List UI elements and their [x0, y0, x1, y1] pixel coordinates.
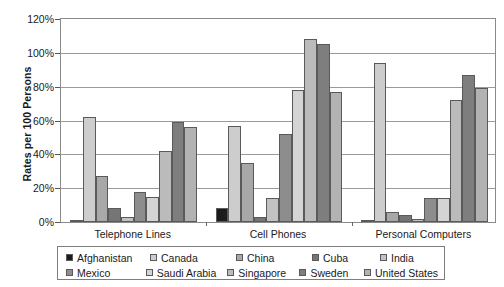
bar — [330, 92, 343, 222]
bar — [374, 63, 387, 222]
legend-label: Cuba — [323, 252, 348, 264]
bar — [254, 217, 267, 222]
legend-swatch — [66, 269, 73, 276]
y-axis-tick-label: 20% — [2, 182, 54, 194]
bar — [462, 75, 475, 222]
bar — [424, 198, 437, 222]
legend-item: China — [236, 252, 312, 264]
bar — [228, 126, 241, 222]
bar — [292, 90, 305, 222]
x-axis-label: Cell Phones — [250, 228, 307, 240]
legend-label: Afghanistan — [77, 252, 132, 264]
legend-swatch — [227, 269, 234, 276]
legend-row: AfghanistanCanadaChinaCubaIndia — [66, 250, 438, 265]
legend-label: India — [391, 252, 414, 264]
bar — [146, 197, 159, 222]
legend-swatch — [66, 254, 73, 261]
legend-swatch — [299, 269, 306, 276]
bar — [134, 192, 147, 222]
legend-item: Saudi Arabia — [146, 267, 228, 279]
bar — [83, 117, 96, 222]
legend-swatch — [236, 254, 243, 261]
bar — [172, 122, 185, 222]
bar — [241, 163, 254, 222]
legend-item: Mexico — [66, 267, 146, 279]
legend-item: Afghanistan — [66, 252, 150, 264]
bar — [70, 220, 83, 222]
bar-series-container — [61, 19, 495, 222]
legend-swatch — [380, 254, 387, 261]
bar — [437, 198, 450, 222]
legend-item: Cuba — [312, 252, 380, 264]
plot-area — [60, 18, 496, 223]
bar — [216, 208, 229, 222]
y-axis-tick-label: 40% — [2, 148, 54, 160]
legend-label: Canada — [161, 252, 198, 264]
bar — [475, 88, 488, 222]
legend-swatch — [312, 254, 319, 261]
legend-item: Singapore — [227, 267, 299, 279]
legend-label: Mexico — [77, 267, 110, 279]
x-axis-label: Personal Computers — [375, 228, 471, 240]
legend-swatch — [146, 269, 153, 276]
y-axis-tick-label: 100% — [2, 47, 54, 59]
bar-chart: Rates per 100 Persons 0%20%40%60%80%100%… — [0, 0, 504, 287]
legend-item: India — [380, 252, 414, 264]
legend-row: MexicoSaudi ArabiaSingaporeSwedenUnited … — [66, 265, 438, 280]
legend-label: Saudi Arabia — [157, 267, 217, 279]
category-separator — [206, 222, 207, 226]
y-axis-tick-label: 0% — [2, 216, 54, 228]
bar — [304, 39, 317, 222]
legend-item: United States — [364, 267, 438, 279]
bar — [108, 208, 121, 222]
bar — [399, 215, 412, 222]
y-axis-tick-label: 120% — [2, 13, 54, 25]
legend-swatch — [364, 269, 371, 276]
legend-item: Sweden — [299, 267, 364, 279]
legend-label: United States — [375, 267, 438, 279]
legend-label: Singapore — [238, 267, 286, 279]
x-axis-label: Telephone Lines — [94, 228, 170, 240]
legend-item: Canada — [150, 252, 236, 264]
bar — [386, 212, 399, 222]
legend-swatch — [150, 254, 157, 261]
bar — [412, 219, 425, 222]
bar — [159, 151, 172, 222]
bar — [317, 44, 330, 222]
bar — [361, 220, 374, 222]
chart-legend: AfghanistanCanadaChinaCubaIndia MexicoSa… — [57, 246, 445, 280]
category-separator — [352, 222, 353, 226]
bar — [266, 198, 279, 222]
legend-label: China — [247, 252, 274, 264]
bar — [96, 176, 109, 222]
legend-label: Sweden — [310, 267, 348, 279]
bar — [121, 217, 134, 222]
y-axis-tick-label: 80% — [2, 81, 54, 93]
bar — [450, 100, 463, 222]
y-axis-tick-label: 60% — [2, 115, 54, 127]
bar — [279, 134, 292, 222]
bar — [184, 127, 197, 222]
